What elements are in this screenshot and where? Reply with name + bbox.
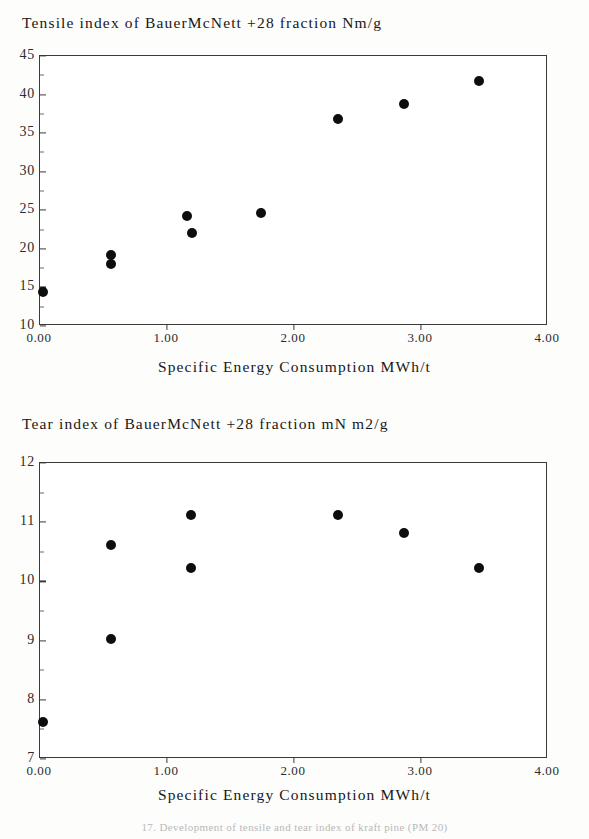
y-tick-minor (40, 113, 44, 114)
y-tick-label: 30 (19, 163, 35, 179)
data-point (186, 563, 196, 573)
y-tick-minor (40, 152, 44, 153)
chart-title-tear: Tear index of BauerMcNett +28 fraction m… (22, 415, 389, 433)
chart-tensile-index: Tensile index of BauerMcNett +28 fractio… (0, 0, 589, 400)
y-tick-mark (40, 699, 46, 700)
x-axis-tear: 0.001.002.003.004.00 (39, 763, 547, 781)
y-tick-minor (40, 229, 44, 230)
x-tick-label: 3.00 (407, 330, 432, 346)
y-tick-minor (40, 611, 44, 612)
y-tick-minor (40, 75, 44, 76)
data-point (186, 510, 196, 520)
data-point (38, 717, 48, 727)
x-axis-label-tear: Specific Energy Consumption MWh/t (0, 786, 589, 804)
y-tick-mark (40, 640, 46, 641)
y-tick-label: 12 (19, 454, 35, 470)
x-tick-label: 1.00 (153, 763, 178, 779)
y-tick-label: 20 (19, 240, 35, 256)
y-tick-mark (40, 581, 46, 582)
data-point (474, 76, 484, 86)
x-tick-label: 1.00 (153, 330, 178, 346)
x-tick-label: 2.00 (280, 763, 305, 779)
plot-area-tear (39, 462, 547, 758)
y-tick-label: 10 (19, 572, 35, 588)
y-tick-label: 40 (19, 86, 35, 102)
y-tick-mark (40, 171, 46, 172)
x-tick-label: 4.00 (534, 763, 559, 779)
y-tick-label: 25 (19, 201, 35, 217)
data-point (399, 99, 409, 109)
data-point (182, 211, 192, 221)
data-point (106, 634, 116, 644)
data-point (399, 528, 409, 538)
data-point (38, 287, 48, 297)
y-tick-label: 8 (27, 691, 35, 707)
y-tick-label: 15 (19, 278, 35, 294)
y-tick-mark (40, 522, 46, 523)
y-tick-label: 11 (20, 513, 35, 529)
data-point (106, 259, 116, 269)
data-point (187, 228, 197, 238)
y-axis-tensile: 1015202530354045 (3, 55, 35, 325)
y-tick-minor (40, 492, 44, 493)
data-point (256, 208, 266, 218)
x-tick-label: 4.00 (534, 330, 559, 346)
y-tick-mark (40, 94, 46, 95)
x-tick-label: 0.00 (26, 330, 51, 346)
y-axis-tear: 789101112 (3, 462, 35, 758)
chart-tear-index: Tear index of BauerMcNett +28 fraction m… (0, 405, 589, 800)
y-tick-minor (40, 670, 44, 671)
x-tick-label: 0.00 (26, 763, 51, 779)
figure-page: Tensile index of BauerMcNett +28 fractio… (0, 0, 589, 839)
y-tick-label: 35 (19, 124, 35, 140)
y-tick-mark (40, 133, 46, 134)
y-tick-minor (40, 729, 44, 730)
chart-title-tensile: Tensile index of BauerMcNett +28 fractio… (22, 14, 382, 32)
plot-area-tensile (39, 55, 547, 325)
x-axis-label-tensile: Specific Energy Consumption MWh/t (0, 358, 589, 376)
y-tick-minor (40, 191, 44, 192)
data-point (474, 563, 484, 573)
y-tick-minor (40, 306, 44, 307)
y-tick-label: 45 (19, 47, 35, 63)
y-tick-mark (40, 462, 46, 463)
y-tick-minor (40, 268, 44, 269)
y-tick-mark (40, 55, 46, 56)
figure-caption: 17. Development of tensile and tear inde… (0, 821, 589, 839)
y-tick-mark (40, 248, 46, 249)
x-tick-label: 2.00 (280, 330, 305, 346)
y-tick-minor (40, 551, 44, 552)
y-tick-mark (40, 325, 46, 326)
x-tick-label: 3.00 (407, 763, 432, 779)
data-point (106, 540, 116, 550)
x-axis-tensile: 0.001.002.003.004.00 (39, 330, 547, 348)
y-tick-mark (40, 210, 46, 211)
data-point (333, 510, 343, 520)
y-tick-label: 9 (27, 632, 35, 648)
y-tick-mark (40, 758, 46, 759)
data-point (333, 114, 343, 124)
